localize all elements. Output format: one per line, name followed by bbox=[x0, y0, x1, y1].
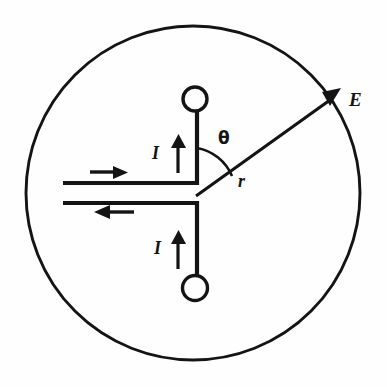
top-conductor-circle bbox=[183, 87, 207, 111]
current-arrow-bottom-icon bbox=[171, 230, 186, 269]
diagram-canvas bbox=[0, 0, 387, 387]
current-arrow-top-icon bbox=[171, 134, 186, 173]
outer-boundary-circle bbox=[26, 26, 360, 360]
angle-label: θ bbox=[218, 130, 230, 147]
bottom-conductor-circle bbox=[183, 276, 208, 301]
flow-arrow-right-icon bbox=[90, 166, 128, 179]
flow-arrow-left-icon bbox=[94, 205, 134, 219]
current-label-bottom: I bbox=[154, 239, 161, 257]
physics-diagram-figure: E r θ I I bbox=[0, 0, 387, 387]
field-vector-label: E bbox=[349, 90, 362, 109]
radius-label: r bbox=[238, 172, 245, 190]
angle-arc bbox=[197, 148, 232, 176]
current-label-top: I bbox=[152, 144, 159, 162]
